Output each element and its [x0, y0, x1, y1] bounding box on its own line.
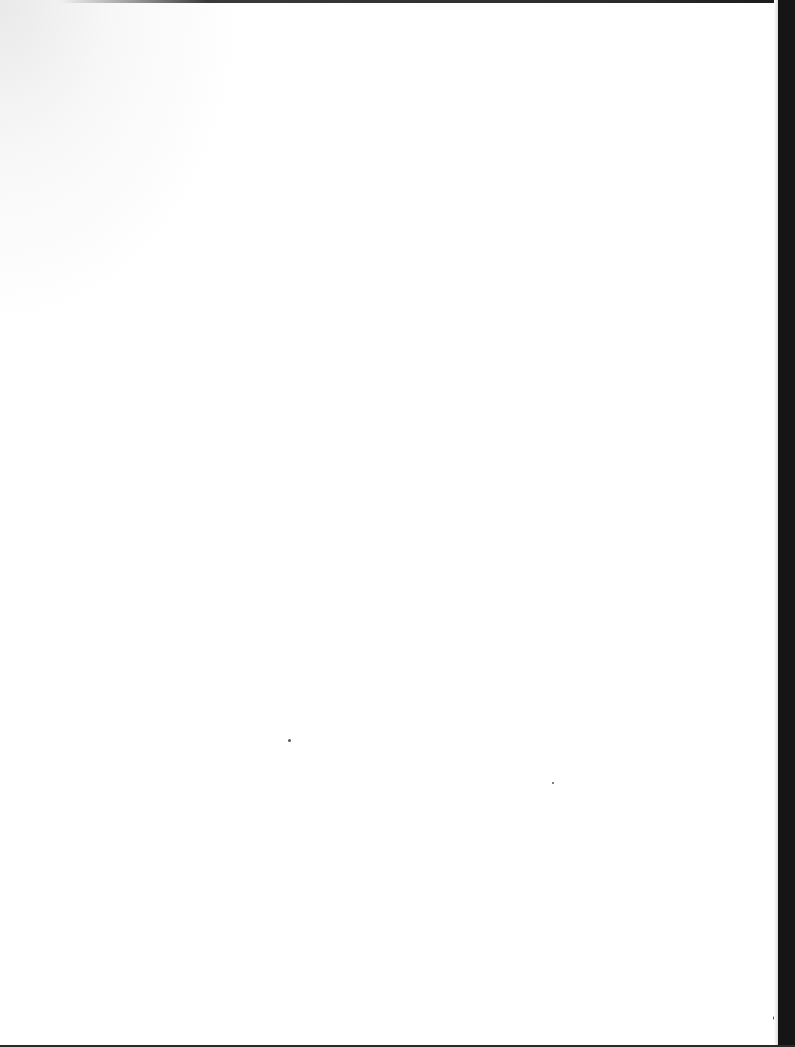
blank-scanned-page	[0, 0, 778, 1045]
scan-top-border	[60, 0, 795, 3]
scan-speck	[552, 782, 554, 784]
bleed-through-text	[300, 540, 480, 600]
scan-speck	[288, 739, 291, 742]
bleed-through-text	[290, 240, 470, 300]
scan-right-border	[778, 0, 795, 1047]
